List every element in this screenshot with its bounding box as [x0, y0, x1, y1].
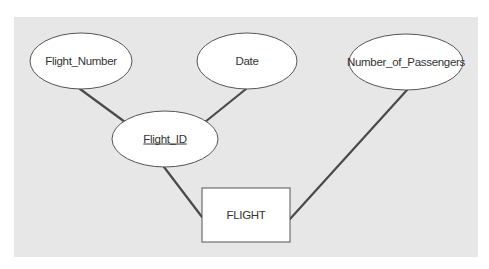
connector-flight-number-to-flight-id	[80, 89, 125, 122]
key-attribute-label: Flight_ID	[143, 133, 186, 145]
attribute-flight-id[interactable]: Flight_ID	[112, 111, 218, 167]
er-diagram: Flight_Number Date Number_of_Passengers …	[0, 0, 489, 269]
connector-date-to-flight-id	[205, 89, 246, 122]
attribute-label: Number_of_Passengers	[347, 56, 466, 68]
connector-flight-id-to-flight	[164, 167, 202, 217]
attribute-flight-number[interactable]: Flight_Number	[30, 33, 132, 89]
attribute-number-of-passengers[interactable]: Number_of_Passengers	[347, 34, 466, 90]
attribute-date[interactable]: Date	[197, 33, 297, 89]
attribute-label: Flight_Number	[45, 55, 117, 67]
entity-label: FLIGHT	[226, 209, 265, 221]
connector-number-of-passengers-to-flight	[290, 90, 407, 219]
entity-flight[interactable]: FLIGHT	[202, 188, 290, 242]
attribute-label: Date	[235, 55, 258, 67]
